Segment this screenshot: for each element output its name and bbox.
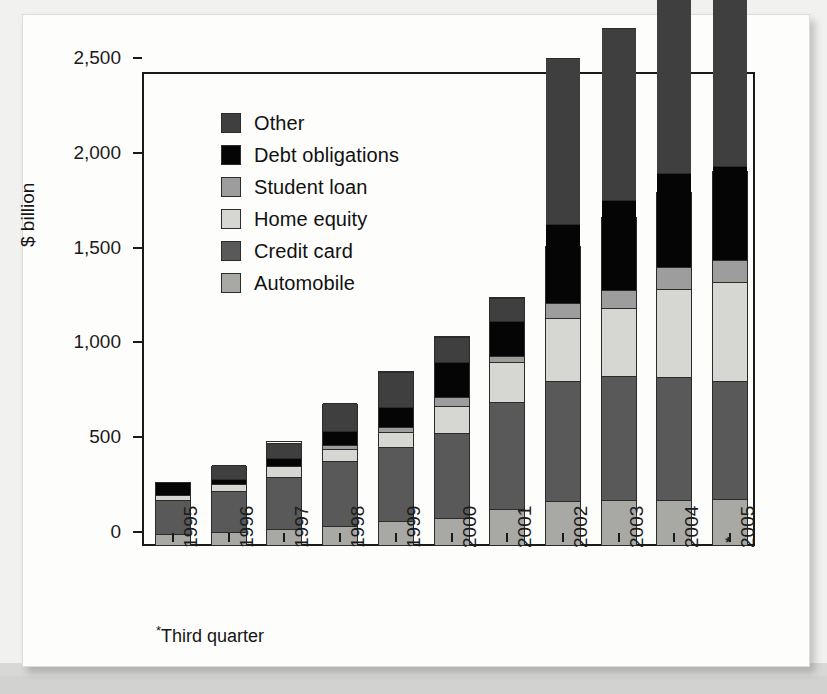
bar-2002	[545, 246, 581, 546]
bar-segment-home-equity	[212, 484, 246, 491]
legend-item-debt-obligations[interactable]: Debt obligations	[221, 139, 399, 171]
x-axis-tick-mark	[339, 533, 341, 542]
y-axis-tick-label: 2,500	[43, 47, 121, 69]
bar-segment-student-loan	[546, 303, 580, 318]
bar-segment-home-equity	[435, 406, 469, 433]
y-axis-tick-mark	[133, 531, 142, 533]
bar-segment-other	[602, 28, 636, 200]
legend-swatch-home	[221, 209, 241, 229]
x-axis-tick-label: 1997	[291, 506, 313, 548]
bar-segment-home-equity	[379, 432, 413, 447]
legend-item-credit-card[interactable]: Credit card	[221, 235, 399, 267]
bar-segment-home-equity	[602, 308, 636, 376]
bar-segment-other	[379, 372, 413, 407]
x-axis-tick-label: 1998	[347, 506, 369, 548]
bar-segment-debt-obligations	[713, 166, 747, 260]
page-bottom-band-shadow	[0, 676, 827, 694]
bar-segment-home-equity	[713, 282, 747, 381]
x-axis-tick-mark	[673, 533, 675, 542]
bar-segment-debt-obligations	[602, 200, 636, 290]
bar-segment-student-loan	[657, 267, 691, 289]
bar-segment-student-loan	[323, 445, 357, 449]
legend-item-label: Student loan	[254, 176, 368, 199]
bar-segment-other	[435, 337, 469, 362]
bar-segment-credit-card	[546, 381, 580, 501]
footnote-text: Third quarter	[161, 626, 264, 646]
bar-segment-other	[323, 403, 357, 431]
x-axis-tick-label: 2002	[570, 506, 592, 548]
bar-2003	[601, 217, 637, 546]
y-axis-tick-label: 0	[43, 521, 121, 543]
legend-item-home-equity[interactable]: Home equity	[221, 203, 399, 235]
bar-segment-debt-obligations	[267, 458, 301, 467]
figure-card: $ billion 2,5002,0001,5001,0005000 19951…	[22, 14, 810, 667]
x-axis-tick-label: 1996	[236, 506, 258, 548]
x-axis-tick-label: 2004	[681, 506, 703, 548]
bar-segment-home-equity	[267, 466, 301, 476]
legend-swatch-student	[221, 177, 241, 197]
x-axis-tick-mark	[618, 533, 620, 542]
legend-item-automobile[interactable]: Automobile	[221, 267, 399, 299]
x-axis-tick-mark	[283, 533, 285, 542]
x-axis-tick-label: 2001	[514, 506, 536, 548]
bar-segment-debt-obligations	[212, 479, 246, 485]
chart-footnote: *Third quarter	[156, 623, 264, 647]
legend-item-student-loan[interactable]: Student loan	[221, 171, 399, 203]
x-axis-tick-label: 2005	[737, 506, 759, 548]
x-axis-tick-mark	[172, 533, 174, 542]
legend-item-label: Credit card	[254, 240, 353, 263]
x-axis-tick-label: 1995	[180, 506, 202, 548]
bar-segment-home-equity	[546, 318, 580, 381]
bar-segment-student-loan	[490, 356, 524, 362]
legend-swatch-debt	[221, 145, 241, 165]
x-axis-tick-mark	[395, 533, 397, 542]
bar-segment-other	[546, 58, 580, 224]
bar-segment-debt-obligations	[379, 407, 413, 428]
figure-page: Investments Boise Cascade Corporation Bo…	[0, 0, 827, 694]
bar-segment-other	[267, 443, 301, 458]
bar-segment-home-equity	[156, 495, 190, 501]
x-axis-tick-label: 2003	[626, 506, 648, 548]
x-axis-tick-label: 1999	[403, 506, 425, 548]
y-axis-tick-mark	[133, 152, 142, 154]
y-axis-tick-mark	[133, 247, 142, 249]
bar-segment-other	[713, 0, 747, 166]
y-axis-tick-mark	[133, 436, 142, 438]
chart-legend: OtherDebt obligationsStudent loanHome eq…	[221, 107, 399, 299]
y-axis-tick-mark	[133, 341, 142, 343]
bar-segment-student-loan	[713, 260, 747, 283]
y-axis-tick-mark	[133, 57, 142, 59]
bar-segment-other	[657, 0, 691, 173]
y-axis-label: $ billion	[17, 183, 39, 247]
bar-segment-student-loan	[435, 397, 469, 406]
legend-swatch-other	[221, 113, 241, 133]
bar-segment-debt-obligations	[490, 321, 524, 356]
x-axis-tick-mark	[451, 533, 453, 542]
bar-segment-credit-card	[490, 402, 524, 509]
y-axis-tick-label: 500	[43, 426, 121, 448]
bar-segment-home-equity	[657, 289, 691, 377]
bar-2005	[712, 171, 748, 546]
legend-item-label: Automobile	[254, 272, 355, 295]
bar-2004	[656, 192, 692, 546]
legend-item-label: Other	[254, 112, 305, 135]
bar-segment-other	[212, 465, 246, 478]
bar-segment-student-loan	[602, 290, 636, 308]
bar-segment-credit-card	[713, 381, 747, 499]
bar-segment-home-equity	[490, 362, 524, 402]
legend-item-label: Debt obligations	[254, 144, 399, 167]
bar-segment-debt-obligations	[156, 482, 190, 495]
bar-segment-home-equity	[323, 449, 357, 460]
bar-segment-student-loan	[379, 427, 413, 432]
legend-item-other[interactable]: Other	[221, 107, 399, 139]
bar-segment-credit-card	[657, 377, 691, 499]
legend-swatch-credit	[221, 241, 241, 261]
y-axis-tick-label: 1,500	[43, 237, 121, 259]
bar-segment-debt-obligations	[323, 431, 357, 445]
x-axis-tick-label: 2000	[459, 506, 481, 548]
x-axis-tick-mark	[562, 533, 564, 542]
x-axis-footnote-marker: *	[725, 533, 731, 550]
legend-swatch-auto	[221, 273, 241, 293]
x-axis-tick-mark	[228, 533, 230, 542]
bar-segment-other	[490, 298, 524, 322]
